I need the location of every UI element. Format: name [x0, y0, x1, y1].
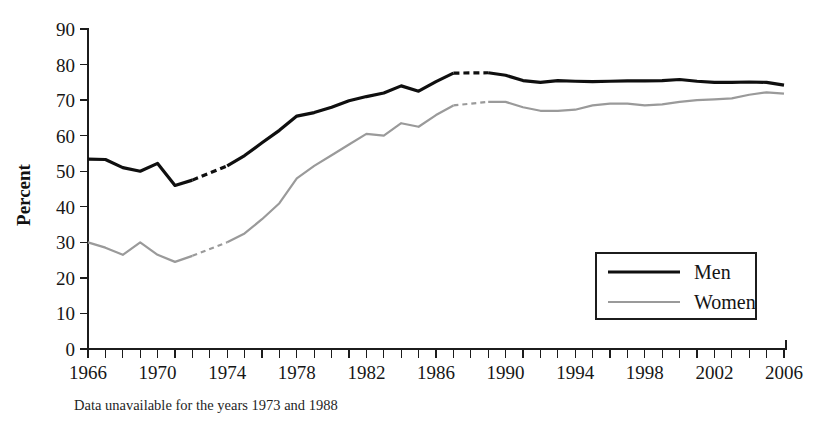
y-tick-label: 30 [56, 232, 75, 253]
series-line-men [227, 73, 453, 166]
legend-label-men: Men [694, 261, 731, 283]
footnote-text: Data unavailable for the years 1973 and … [74, 397, 338, 413]
y-tick-label: 80 [56, 55, 75, 76]
y-tick-label: 60 [56, 126, 75, 147]
y-axis-title: Percent [13, 163, 34, 226]
y-axis-tick-labels: 0102030405060708090 [56, 19, 75, 360]
legend-label-women: Women [694, 291, 756, 313]
x-tick-label: 1986 [417, 362, 455, 383]
series-line-women [227, 105, 453, 242]
x-axis-line [88, 340, 786, 349]
y-tick-label: 40 [56, 197, 75, 218]
series-line-men [88, 159, 192, 185]
y-tick-label: 50 [56, 161, 75, 182]
series-line-men-gap [192, 166, 227, 180]
x-tick-label: 1978 [278, 362, 316, 383]
y-tick-label: 0 [66, 339, 76, 360]
x-axis-ticks [88, 349, 784, 358]
x-tick-label: 1974 [208, 362, 247, 383]
y-tick-label: 70 [56, 90, 75, 111]
x-tick-label: 1970 [139, 362, 177, 383]
series-line-women [88, 242, 192, 262]
y-tick-label: 10 [56, 303, 75, 324]
x-tick-label: 1982 [347, 362, 385, 383]
chart-figure: 0102030405060708090 19661970197419781982… [0, 0, 813, 430]
x-tick-label: 2006 [765, 362, 803, 383]
series-line-women-gap [192, 242, 227, 256]
x-tick-label: 1966 [69, 362, 107, 383]
x-axis-tick-labels: 1966197019741978198219861990199419982002… [69, 362, 803, 383]
series-line-men [488, 73, 784, 85]
series-line-women-gap [453, 102, 488, 106]
series-line-women [488, 92, 784, 110]
x-tick-label: 1990 [487, 362, 525, 383]
chart-legend: Men Women [596, 253, 756, 319]
y-axis-ticks [80, 29, 88, 349]
y-tick-label: 20 [56, 268, 75, 289]
y-tick-label: 90 [56, 19, 75, 40]
data-series-group [88, 73, 784, 262]
line-chart: 0102030405060708090 19661970197419781982… [0, 0, 813, 430]
x-tick-label: 2002 [695, 362, 733, 383]
x-tick-label: 1998 [626, 362, 664, 383]
x-tick-label: 1994 [556, 362, 595, 383]
